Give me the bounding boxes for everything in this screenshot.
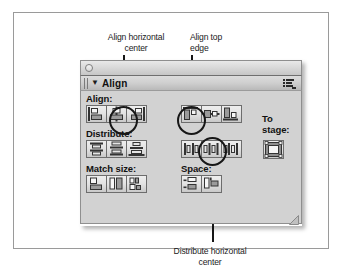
resize-grip-icon[interactable] — [289, 211, 299, 221]
panel-header[interactable]: ▼ Align — [80, 75, 302, 91]
to-stage-toggle-button[interactable] — [263, 140, 284, 159]
annotation-circle-distribute-horizontal-center — [198, 137, 227, 166]
callout-align-horizontal-center: Align horizontal center — [88, 32, 184, 53]
callout-align-top-edge: Align top edge — [190, 32, 256, 53]
section-label-match-size: Match size: — [86, 163, 136, 174]
window-titlebar[interactable] — [80, 60, 302, 75]
callout-distribute-horizontal-center: Distribute horizontal center — [137, 246, 283, 266]
match-size-button-group — [86, 175, 147, 193]
close-icon[interactable] — [85, 64, 93, 72]
space-button-group — [181, 175, 222, 193]
space-evenly-vertically-button[interactable] — [181, 175, 202, 193]
align-left-edge-button[interactable] — [86, 105, 107, 123]
match-height-button[interactable] — [106, 175, 127, 193]
match-width-button[interactable] — [86, 175, 107, 193]
space-evenly-horizontally-button[interactable] — [201, 175, 222, 193]
chevron-down-icon[interactable]: ▼ — [91, 79, 99, 87]
distribute-vertical-button-group — [86, 140, 147, 158]
align-bottom-edge-button[interactable] — [221, 105, 242, 123]
panel-grabber-icon[interactable] — [84, 78, 90, 89]
to-stage-button-group — [263, 140, 284, 159]
panel-options-menu-icon[interactable] — [283, 78, 296, 89]
align-panel-window: ▼ Align Align: — [80, 60, 302, 226]
panel-title: Align — [102, 78, 128, 89]
match-width-and-height-button[interactable] — [126, 175, 147, 193]
distribute-bottom-edge-button[interactable] — [126, 140, 147, 158]
distribute-vertical-center-button[interactable] — [106, 140, 127, 158]
distribute-top-edge-button[interactable] — [86, 140, 107, 158]
annotation-circle-align-horizontal-center — [109, 106, 138, 135]
section-label-align: Align: — [86, 93, 112, 104]
section-label-to-stage: To stage: — [262, 113, 302, 135]
figure-frame: Align horizontal center Align top edge D… — [13, 12, 329, 249]
annotation-circle-align-top-edge — [177, 106, 206, 135]
